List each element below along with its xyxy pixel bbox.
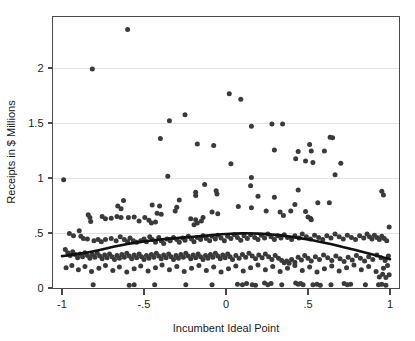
data-point xyxy=(214,191,219,196)
data-point xyxy=(269,281,274,286)
data-point xyxy=(153,220,158,225)
data-point xyxy=(351,262,356,267)
data-point xyxy=(315,200,320,205)
data-point xyxy=(333,254,338,259)
data-point xyxy=(64,265,69,270)
data-point xyxy=(248,265,253,270)
data-point xyxy=(69,263,74,268)
data-point xyxy=(243,255,248,260)
data-point xyxy=(119,215,124,220)
data-point xyxy=(272,195,277,200)
y-tick-label-2: 1 xyxy=(37,172,43,184)
data-point xyxy=(280,122,285,127)
data-point xyxy=(237,256,242,261)
data-point xyxy=(344,265,349,270)
y-tick-label-0: 0 xyxy=(37,282,43,294)
data-point xyxy=(381,266,386,271)
data-point xyxy=(228,161,233,166)
data-point xyxy=(189,266,194,271)
data-point xyxy=(377,275,382,280)
data-point xyxy=(138,264,143,269)
data-point xyxy=(183,112,188,117)
data-point xyxy=(118,234,123,239)
data-point xyxy=(96,266,101,271)
data-point xyxy=(219,270,224,275)
data-point xyxy=(346,255,351,260)
data-point xyxy=(204,268,209,273)
data-point xyxy=(117,265,122,270)
data-point xyxy=(253,283,258,288)
y-tick-label-3: 1.5 xyxy=(28,117,43,129)
data-point xyxy=(161,241,166,246)
data-point xyxy=(61,177,66,182)
data-point xyxy=(337,268,342,273)
data-point xyxy=(182,269,187,274)
data-point xyxy=(269,122,274,127)
data-point xyxy=(249,205,254,210)
data-point xyxy=(359,267,364,272)
data-point xyxy=(338,161,343,166)
data-point xyxy=(263,267,268,272)
data-point xyxy=(245,236,250,241)
data-point xyxy=(195,141,200,146)
data-point xyxy=(127,283,132,288)
chart-canvas: 0.511.52 -1-.50.51 Incumbent Ideal Point… xyxy=(0,0,415,341)
data-point xyxy=(109,216,114,221)
data-point xyxy=(215,211,220,216)
x-tick-label-0: -1 xyxy=(57,298,67,310)
data-point xyxy=(366,264,371,269)
data-point xyxy=(350,257,355,262)
data-point xyxy=(329,258,334,263)
data-point xyxy=(235,282,240,287)
data-point xyxy=(270,264,275,269)
data-point xyxy=(342,259,347,264)
data-point xyxy=(77,228,82,233)
data-point xyxy=(384,238,389,243)
data-point xyxy=(226,266,231,271)
data-point xyxy=(196,263,201,268)
data-point xyxy=(310,160,315,165)
data-point xyxy=(300,268,305,273)
data-point xyxy=(255,194,260,199)
data-point xyxy=(193,193,198,198)
data-point xyxy=(317,257,322,262)
data-point xyxy=(114,238,119,243)
data-point xyxy=(177,198,182,203)
data-point xyxy=(210,210,215,215)
data-point xyxy=(174,264,179,269)
data-point xyxy=(159,212,164,217)
x-tick-label-2: 0 xyxy=(223,298,229,310)
data-point xyxy=(328,282,333,287)
data-point xyxy=(329,264,334,269)
data-point xyxy=(132,215,137,220)
data-point xyxy=(307,265,312,270)
data-point xyxy=(383,283,388,288)
data-point xyxy=(207,238,212,243)
data-point xyxy=(309,217,314,222)
data-point xyxy=(103,263,108,268)
data-point xyxy=(210,282,215,287)
data-point xyxy=(354,253,359,258)
data-point xyxy=(370,257,375,262)
data-point xyxy=(322,149,327,154)
data-point xyxy=(152,282,157,287)
data-point xyxy=(325,255,330,260)
data-point xyxy=(381,193,386,198)
data-point xyxy=(374,269,379,274)
data-point xyxy=(299,257,304,262)
data-point xyxy=(330,135,335,140)
data-point xyxy=(313,254,318,259)
data-point xyxy=(236,204,241,209)
scatter-plot-figure: 0.511.52 -1-.50.51 Incumbent Ideal Point… xyxy=(0,0,415,341)
data-point xyxy=(322,266,327,271)
data-point xyxy=(281,213,286,218)
data-point xyxy=(363,282,368,287)
data-point xyxy=(192,222,197,227)
data-point xyxy=(337,256,342,261)
data-point xyxy=(285,266,290,271)
x-axis-title: Incumbent Ideal Point xyxy=(173,322,279,334)
data-point xyxy=(248,183,253,188)
data-point xyxy=(165,174,170,179)
data-point xyxy=(353,237,358,242)
y-tick-label-4: 2 xyxy=(37,62,43,74)
